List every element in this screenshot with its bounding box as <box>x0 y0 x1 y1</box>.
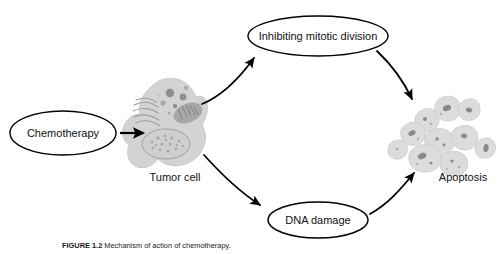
node-chemotherapy[interactable]: Chemotherapy <box>10 111 116 155</box>
node-dna-damage[interactable]: DNA damage <box>268 202 368 238</box>
figure-container: Tumor cell <box>0 0 501 254</box>
tumor-cell-illustration <box>123 78 208 168</box>
apoptosis-illustration <box>388 96 496 176</box>
apoptotic-body <box>388 140 408 159</box>
nucleus <box>142 129 190 159</box>
inhibiting-mitotic-division-label: Inhibiting mitotic division <box>259 30 378 42</box>
edge-tumor-cell-to-inhibiting-mitotic-division <box>202 58 254 104</box>
figure-caption-text: Mechanism of action of chemotherapy. <box>104 241 230 250</box>
chemotherapy-label: Chemotherapy <box>27 127 100 139</box>
figure-caption: FIGURE 1.2 Mechanism of action of chemot… <box>62 241 482 251</box>
apoptotic-body <box>452 125 478 150</box>
apoptotic-body <box>409 145 441 173</box>
apoptotic-body <box>475 138 496 158</box>
tumor-cell-label: Tumor cell <box>150 171 201 183</box>
dna-damage-label: DNA damage <box>285 214 350 226</box>
edge-tumor-cell-to-dna-damage <box>204 155 260 205</box>
apoptotic-body <box>458 99 480 121</box>
apoptotic-body <box>435 96 461 121</box>
diagram-canvas: Tumor cell <box>0 0 501 254</box>
apoptosis-label: Apoptosis <box>439 171 488 183</box>
figure-caption-number: FIGURE 1.2 <box>62 241 102 250</box>
edge-inhibiting-mitotic-division-to-apoptosis <box>377 51 412 99</box>
node-inhibiting-mitotic-division[interactable]: Inhibiting mitotic division <box>248 16 388 56</box>
edge-dna-damage-to-apoptosis <box>370 173 414 214</box>
